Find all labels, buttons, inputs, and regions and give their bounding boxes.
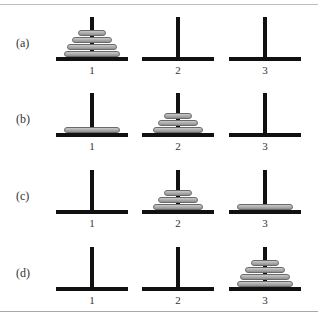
peg-base [229,133,301,137]
disk-size-2 [158,197,198,203]
tower-3: 3 [229,88,301,166]
peg-rod [90,247,94,287]
peg-base [56,133,128,137]
peg-number-label: 3 [229,217,301,229]
tower-1: 1 [56,12,128,90]
tower-2: 2 [142,88,214,166]
tower-1: 1 [56,165,128,243]
top-rule [0,4,318,5]
peg-base [56,287,128,291]
disk-size-1 [251,260,279,266]
tower-1: 1 [56,88,128,166]
tower-2: 2 [142,242,214,320]
tower-3: 3 [229,242,301,320]
disk-size-3 [240,274,290,280]
disk-size-3 [67,44,117,50]
disk-size-1 [164,190,192,196]
peg-number-label: 1 [56,64,128,76]
peg-base [142,287,214,291]
row-label: (c) [16,189,29,204]
bottom-rule [0,311,318,312]
peg-rod [176,17,180,57]
peg-number-label: 3 [229,64,301,76]
peg-number-label: 2 [142,64,214,76]
row-label: (a) [16,36,29,51]
peg-rod [90,170,94,210]
tower-1: 1 [56,242,128,320]
peg-base [229,57,301,61]
peg-number-label: 1 [56,294,128,306]
row-c: (c)123 [0,165,318,243]
disk-size-2 [158,120,198,126]
peg-rod [176,247,180,287]
disk-size-2 [245,267,285,273]
row-b: (b)123 [0,88,318,166]
disk-size-2 [72,37,112,43]
row-d: (d)123 [0,242,318,320]
peg-base [142,57,214,61]
peg-number-label: 3 [229,140,301,152]
peg-number-label: 2 [142,217,214,229]
tower-3: 3 [229,165,301,243]
disk-size-1 [78,30,106,36]
disk-size-1 [164,113,192,119]
peg-rod [263,17,267,57]
tower-2: 2 [142,165,214,243]
peg-base [142,133,214,137]
peg-base [56,57,128,61]
peg-rod [263,93,267,133]
tower-2: 2 [142,12,214,90]
peg-base [229,210,301,214]
peg-base [229,287,301,291]
tower-3: 3 [229,12,301,90]
peg-number-label: 2 [142,140,214,152]
peg-base [142,210,214,214]
row-label: (d) [16,266,30,281]
row-a: (a)123 [0,12,318,90]
peg-base [56,210,128,214]
peg-number-label: 2 [142,294,214,306]
peg-number-label: 3 [229,294,301,306]
row-label: (b) [16,112,30,127]
peg-number-label: 1 [56,140,128,152]
peg-number-label: 1 [56,217,128,229]
